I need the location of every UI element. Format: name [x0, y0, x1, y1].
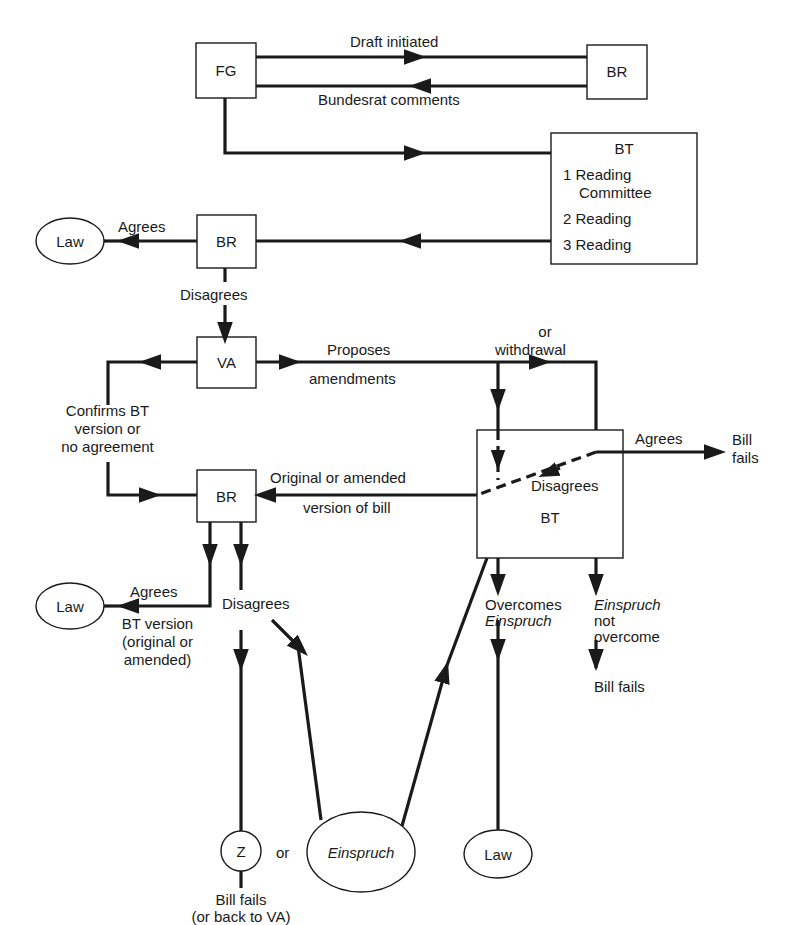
br-top-label: BR: [587, 63, 647, 80]
bill-fails-z-label-2: (or back to VA): [171, 908, 311, 925]
bt-stage-1: 1 Reading: [563, 166, 631, 183]
law-low-left-label: Law: [36, 598, 104, 615]
bt-disagrees-label: Disagrees: [531, 477, 599, 494]
edge-disagrees-einspruch: [272, 620, 300, 648]
draft-initiated-label: Draft initiated: [350, 33, 438, 50]
bt-stage-3: 3 Reading: [563, 236, 631, 253]
br-mid-label: BR: [197, 233, 256, 250]
edge-einspruch-to-bt: [402, 672, 445, 826]
confirms-label-3: no agreement: [40, 438, 175, 455]
bt-version-label-1: BT version: [105, 615, 210, 632]
z-or-label: or: [276, 844, 289, 861]
bt-stage-committee: Committee: [579, 184, 652, 201]
not-overcome-label-1: Einspruch: [594, 596, 661, 613]
law-low-right-label: Law: [464, 846, 532, 863]
bt-top-label: BT: [551, 140, 697, 157]
amendments-label: amendments: [309, 370, 396, 387]
bill-fails-bottom-label: Bill fails: [594, 678, 645, 695]
diagram-canvas: [0, 0, 801, 925]
br-low-label: BR: [197, 488, 256, 505]
bt-agrees-label: Agrees: [635, 430, 683, 447]
overcomes-label-1: Overcomes: [485, 596, 562, 613]
br-low-disagrees-label: Disagrees: [222, 595, 290, 612]
br-mid-agrees-label: Agrees: [118, 218, 166, 235]
law-mid-label: Law: [36, 233, 104, 250]
va-label: VA: [197, 354, 256, 371]
proposes-label: Proposes: [327, 341, 390, 358]
confirms-label-1: Confirms BT: [40, 402, 175, 419]
legislative-process-diagram: FG BR BT 1 Reading Committee 2 Reading 3…: [0, 0, 801, 925]
z-label: Z: [221, 843, 261, 860]
bill-fails-right-1: Bill: [732, 431, 752, 448]
einspruch-text: Einspruch: [307, 844, 415, 861]
br-mid-disagrees-label: Disagrees: [180, 286, 248, 303]
overcomes-label-2: Einspruch: [485, 612, 552, 629]
bill-fails-z-label-1: Bill fails: [171, 891, 311, 908]
bundesrat-comments-label: Bundesrat comments: [318, 91, 460, 108]
orig-amended-label-1: Original or amended: [270, 469, 406, 486]
br-low-agrees-label: Agrees: [130, 583, 178, 600]
bt-low-label: BT: [510, 509, 590, 526]
or-label: or: [495, 323, 595, 340]
bt-version-label-3: amended): [105, 651, 210, 668]
fg-label: FG: [196, 62, 256, 79]
not-overcome-label-3: overcome: [594, 628, 660, 645]
bt-version-label-2: (original or: [105, 633, 210, 650]
bill-fails-right-2: fails: [732, 449, 759, 466]
confirms-label-2: version or: [40, 420, 175, 437]
bt-stage-2: 2 Reading: [563, 210, 631, 227]
orig-amended-label-2: version of bill: [303, 499, 391, 516]
withdrawal-label: withdrawal: [495, 341, 566, 358]
not-overcome-label-2: not: [594, 612, 615, 629]
